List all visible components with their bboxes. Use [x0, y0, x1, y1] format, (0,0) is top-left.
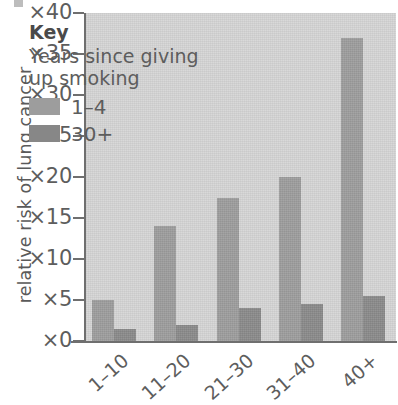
y-axis-tick-label: ×0	[10, 330, 72, 351]
y-axis-tick-label: ×5	[10, 289, 72, 310]
y-axis-tick	[73, 258, 84, 260]
y-axis-tick	[73, 217, 84, 219]
bar-40+-30+	[363, 296, 385, 341]
x-axis-tick-label: 40+	[318, 349, 382, 405]
x-axis-tick-label: 31–40	[256, 349, 320, 405]
bar-2130-30+	[239, 308, 261, 341]
legend-title: Key	[29, 22, 239, 44]
legend-entry: 30+	[29, 124, 239, 144]
bar-110-14	[92, 300, 114, 341]
legend-entry-label: 1–4	[71, 97, 106, 117]
legend-subtitle: Years since giving up smoking	[29, 45, 219, 90]
legend-swatch-icon	[29, 98, 60, 115]
x-axis-tick-label: 11–20	[131, 349, 195, 405]
bar-40+-14	[341, 38, 363, 341]
bar-3140-14	[279, 177, 301, 341]
legend-entry-label: 30+	[71, 124, 113, 144]
bar-110-30+	[114, 329, 136, 341]
bar-1120-30+	[176, 325, 198, 341]
y-axis-tick	[73, 176, 84, 178]
x-axis-tick-labels: 1–1011–2021–3031–4040+	[85, 341, 396, 405]
bar-3140-30+	[301, 304, 323, 341]
legend-entries: 1–430+	[29, 97, 239, 144]
lung-cancer-risk-bar-chart: relative risk of lung cancer ×0×5×10×15×…	[0, 0, 398, 405]
y-axis-tick	[73, 12, 84, 14]
y-axis-tick-label: ×10	[10, 248, 72, 269]
chart-legend-key: Key Years since giving up smoking 1–430+	[29, 22, 239, 144]
legend-entry: 1–4	[29, 97, 239, 117]
legend-swatch-icon	[29, 125, 60, 142]
y-axis-tick-label: ×40	[10, 2, 72, 23]
y-axis-tick-label: ×15	[10, 207, 72, 228]
bar-2130-14	[217, 198, 239, 342]
y-axis-tick-label: ×20	[10, 166, 72, 187]
bar-1120-14	[154, 226, 176, 341]
x-axis-tick-label: 21–30	[193, 349, 257, 405]
x-axis-tick-label: 1–10	[69, 349, 133, 405]
y-axis-tick	[73, 299, 84, 301]
